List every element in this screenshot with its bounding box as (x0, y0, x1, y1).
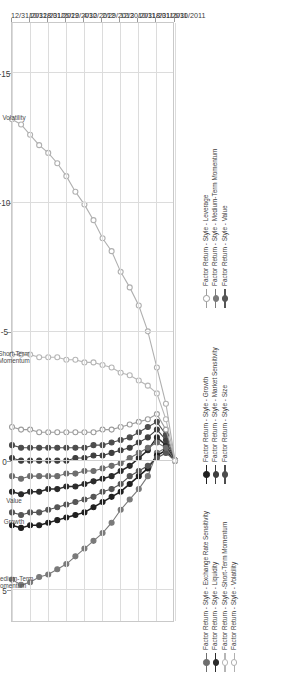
legend-item-label: Factor Return - Style - Growth (202, 377, 211, 462)
legend-marker-icon (211, 653, 220, 672)
data-point (145, 425, 150, 430)
date-gridline (156, 23, 157, 621)
series-layer (12, 21, 175, 621)
legend-item-label: Factor Return - Style - Medium-Term Mome… (211, 149, 220, 286)
value-tick-label: 0 (2, 457, 7, 466)
data-point (127, 463, 132, 468)
data-point (73, 500, 78, 505)
legend-item[interactable]: Factor Return - Style - Liquidity (211, 511, 220, 672)
data-point (145, 383, 150, 388)
legend-item-label: Factor Return - Style -Short-Term Moment… (221, 522, 230, 650)
value-tick-label: -5 (1, 328, 8, 337)
data-point (145, 435, 150, 440)
legend-marker-icon (211, 465, 220, 484)
series-annotation: Short-TermMomentum (0, 351, 30, 365)
legend-item[interactable]: Factor Return - Style -Short-Term Moment… (220, 511, 229, 672)
data-point (19, 512, 24, 517)
data-point (91, 494, 96, 499)
data-point (163, 401, 168, 406)
data-point (19, 122, 24, 127)
legend-marker-icon (202, 465, 211, 484)
data-point (91, 218, 96, 223)
value-tick-label: -10 (0, 199, 10, 208)
data-point (109, 463, 114, 468)
data-point (73, 430, 78, 435)
data-point (73, 471, 78, 476)
data-point (109, 450, 114, 455)
legend-marker-icon (220, 465, 229, 484)
legend-marker-icon (202, 289, 211, 308)
value-gridline (12, 202, 173, 203)
data-point (73, 357, 78, 362)
legend-item-label: Factor Return - Style - Exchange Rate Se… (202, 511, 211, 650)
data-point (127, 474, 132, 479)
legend-item[interactable]: Factor Return - Style - Growth (202, 347, 211, 484)
legend-item-label: Factor Return - Style - Market Sensitivi… (211, 347, 220, 462)
legend-item-label: Factor Return - Style - Volatility (230, 562, 239, 650)
data-point (145, 445, 150, 450)
legend-column: Factor Return - Style - LeverageFactor R… (202, 149, 230, 308)
rotated-figure: 50-5-10-15 6/30/20118/31/201110/31/20111… (0, 0, 298, 680)
data-point (37, 474, 42, 479)
data-point (127, 497, 132, 502)
legend-marker-icon (230, 653, 239, 672)
data-point (91, 469, 96, 474)
chart-screenshot: 50-5-10-15 6/30/20118/31/201110/31/20111… (0, 0, 298, 680)
data-point (91, 479, 96, 484)
annotation-line: Momentum (0, 583, 33, 590)
data-point (19, 525, 24, 530)
data-point (91, 443, 96, 448)
data-point (37, 523, 42, 528)
annotation-line: Momentum (0, 358, 30, 365)
data-point (19, 445, 24, 450)
date-tick-label: 12/31/2012 (11, 11, 47, 20)
annotation-line: Growth (4, 519, 24, 526)
legend-item-label: Factor Return - Style - Value (221, 205, 230, 286)
data-point (127, 435, 132, 440)
data-point (91, 538, 96, 543)
legend-item-label: Factor Return - Style - Size (221, 385, 230, 462)
value-gridline (12, 460, 173, 461)
date-gridline (48, 23, 49, 621)
data-point (55, 445, 60, 450)
legend-item[interactable]: Factor Return - Style - Leverage (202, 149, 211, 308)
data-point (127, 373, 132, 378)
data-point (145, 417, 150, 422)
legend-item[interactable]: Factor Return - Style - Market Sensitivi… (211, 347, 220, 484)
data-point (109, 474, 114, 479)
date-gridline (102, 23, 103, 621)
annotation-line: Volatility (2, 115, 25, 122)
plot-frame (11, 22, 174, 622)
date-gridline (120, 23, 121, 621)
date-gridline (84, 23, 85, 621)
legend-item[interactable]: Factor Return - Style - Size (220, 347, 229, 484)
data-point (73, 554, 78, 559)
data-point (73, 484, 78, 489)
annotation-line: Value (6, 498, 22, 505)
data-point (127, 445, 132, 450)
legend: Factor Return - Style - Exchange Rate Se… (202, 0, 298, 680)
legend-item[interactable]: Factor Return - Style - Volatility (230, 511, 239, 672)
value-gridline (12, 72, 173, 73)
legend-item-label: Factor Return - Style - Leverage (202, 195, 211, 286)
series-annotation: Volatility (2, 115, 25, 122)
legend-item[interactable]: Factor Return - Style - Value (220, 149, 229, 308)
legend-column: Factor Return - Style - GrowthFactor Ret… (202, 347, 230, 484)
data-point (55, 430, 60, 435)
legend-column: Factor Return - Style - Exchange Rate Se… (202, 511, 239, 672)
data-point (73, 445, 78, 450)
data-point (37, 143, 42, 148)
data-point (73, 512, 78, 517)
data-point (109, 365, 114, 370)
data-point (109, 494, 114, 499)
data-point (163, 445, 168, 450)
legend-item[interactable]: Factor Return - Style - Medium-Term Mome… (211, 149, 220, 308)
legend-marker-icon (211, 289, 220, 308)
data-point (37, 445, 42, 450)
series-annotation: Medium-TermMomentum (0, 576, 33, 590)
date-gridline (12, 23, 13, 621)
series-volatility (10, 117, 178, 463)
data-point (55, 518, 60, 523)
legend-item[interactable]: Factor Return - Style - Exchange Rate Se… (202, 511, 211, 672)
data-point (55, 474, 60, 479)
